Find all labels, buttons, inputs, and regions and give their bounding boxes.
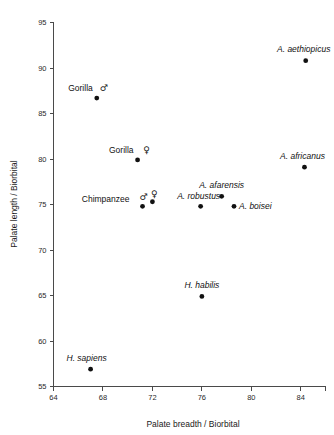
- y-tick-label: 70: [38, 246, 46, 255]
- y-tick-label: 80: [38, 155, 46, 164]
- x-tick-label: 80: [247, 393, 255, 402]
- data-point-group: A. robustus: [176, 191, 221, 208]
- plot-canvas: 556065707580859095 646872768084 Gorilla♂…: [0, 0, 334, 435]
- data-point-group: A. aethiopicus: [276, 44, 331, 63]
- data-point-label: Gorilla: [109, 145, 134, 155]
- data-point-label: H. habilis: [184, 280, 220, 290]
- male-symbol-icon: ♂: [100, 83, 108, 93]
- data-point-label: A. robustus: [176, 191, 221, 201]
- y-tick-label: 65: [38, 291, 46, 300]
- female-symbol-icon: ♀: [143, 145, 150, 155]
- data-point-group: H. habilis: [184, 280, 220, 298]
- data-point-group: Gorilla♂: [68, 83, 108, 100]
- data-point-label: A. boisei: [238, 201, 273, 211]
- data-point-marker: [302, 165, 307, 170]
- data-point-group: A. boisei: [232, 201, 273, 211]
- data-point-marker: [198, 204, 203, 209]
- y-axis-title: Palate length / Biorbital: [9, 160, 19, 248]
- y-axis: 556065707580859095: [38, 18, 53, 391]
- data-point-marker: [88, 367, 93, 372]
- data-point-label: Chimpanzee: [82, 194, 130, 204]
- male-symbol-icon: ♂: [139, 192, 147, 202]
- data-point-group: A. africanus: [279, 151, 326, 169]
- data-point-group: Chimpanzee♂: [82, 192, 148, 208]
- x-tick-label: 76: [198, 393, 206, 402]
- female-symbol-icon: ♀: [151, 189, 158, 199]
- y-tick-label: 95: [38, 18, 46, 27]
- data-point-marker: [150, 199, 155, 204]
- data-point-label: A. aethiopicus: [276, 44, 331, 54]
- data-point-marker: [303, 58, 308, 63]
- y-tick-label: 75: [38, 200, 46, 209]
- data-point-group: ♀: [150, 189, 158, 204]
- data-points-layer: Gorilla♂Gorilla♀Chimpanzee♂♀A. robustusA…: [67, 44, 332, 372]
- data-point-label: A. africanus: [279, 151, 326, 161]
- data-point-label: Gorilla: [68, 83, 93, 93]
- x-axis: 646872768084: [49, 387, 325, 402]
- x-tick-label: 68: [99, 393, 107, 402]
- scatter-plot-figure: 556065707580859095 646872768084 Gorilla♂…: [0, 0, 334, 435]
- y-tick-label: 85: [38, 109, 46, 118]
- x-tick-label: 72: [148, 393, 156, 402]
- data-point-marker: [94, 96, 99, 101]
- data-point-marker: [232, 204, 237, 209]
- y-tick-label: 55: [38, 382, 46, 391]
- data-point-group: H. sapiens: [67, 353, 108, 371]
- data-point-group: Gorilla♀: [109, 145, 150, 162]
- data-point-label: A. afarensis: [198, 180, 245, 190]
- data-point-marker: [135, 158, 140, 163]
- data-point-marker: [199, 294, 204, 299]
- x-tick-label: 64: [49, 393, 57, 402]
- y-tick-label: 90: [38, 64, 46, 73]
- data-point-marker: [219, 194, 224, 199]
- data-point-label: H. sapiens: [67, 353, 108, 363]
- y-tick-label: 60: [38, 337, 46, 346]
- data-point-marker: [140, 204, 145, 209]
- x-axis-title: Palate breadth / Biorbital: [146, 419, 239, 429]
- x-tick-label: 84: [297, 393, 305, 402]
